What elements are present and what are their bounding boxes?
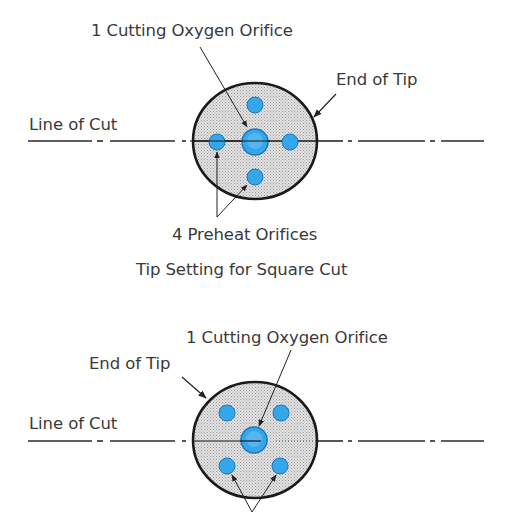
preheat-orifice-icon <box>272 458 288 474</box>
preheat-orifice-icon <box>219 458 235 474</box>
preheat-orifice-icon <box>282 134 298 150</box>
preheat-orifice-icon <box>273 405 289 421</box>
label-line-of-cut-top: Line of Cut <box>29 117 117 134</box>
label-preheat-orifices: 4 Preheat Orifices <box>172 227 317 244</box>
arrow-end-of-tip-top <box>314 94 336 117</box>
label-cutting-orifice-bottom: 1 Cutting Oxygen Orifice <box>186 330 388 347</box>
preheat-orifice-icon <box>219 405 235 421</box>
preheat-orifice-icon <box>209 134 225 150</box>
preheat-orifice-icon <box>247 97 263 113</box>
label-line-of-cut-bottom: Line of Cut <box>29 416 117 433</box>
preheat-orifice-icon <box>247 169 263 185</box>
label-end-of-tip-bottom: End of Tip <box>89 356 170 373</box>
arrow-end-of-tip-bottom <box>182 377 206 398</box>
caption-square-cut: Tip Setting for Square Cut <box>136 262 347 279</box>
diagram-canvas <box>0 0 509 512</box>
label-cutting-orifice-top: 1 Cutting Oxygen Orifice <box>91 23 293 40</box>
label-end-of-tip-top: End of Tip <box>336 72 417 89</box>
cutting-orifice-highlight <box>246 431 262 447</box>
